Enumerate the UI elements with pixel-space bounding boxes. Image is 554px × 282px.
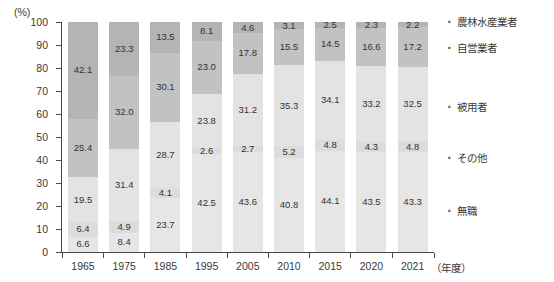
bar-column[interactable]: 43.34.832.517.22.2: [398, 22, 428, 252]
bar-stack: 43.62.731.217.84.6: [233, 22, 263, 252]
legend-item[interactable]: ・被用者: [444, 102, 487, 113]
bar-segment-value: 4.3: [356, 142, 386, 152]
bar-segment-value: 35.3: [274, 101, 304, 111]
bar-segment-value: 42.5: [192, 198, 222, 208]
bar-stack: 8.44.931.432.023.3: [109, 22, 139, 252]
bar-segment-value: 43.3: [398, 197, 428, 207]
legend-item[interactable]: ・農林水産業者: [444, 17, 517, 28]
y-axis-tick-label: 30: [22, 178, 48, 189]
bar-segment-value: 43.6: [233, 197, 263, 207]
bar-segment-value: 34.1: [315, 96, 345, 106]
bar-segment-value: 15.5: [274, 42, 304, 52]
x-axis-tick-mark: [62, 253, 63, 258]
x-axis-tick-mark: [309, 253, 310, 258]
y-axis-tick-label: 50: [22, 132, 48, 143]
bar-segment-value: 32.0: [109, 108, 139, 118]
legend-item-label: 無職: [457, 205, 477, 217]
bar-segment-value: 14.5: [315, 40, 345, 50]
x-axis-tick-mark: [268, 253, 269, 258]
bar-column[interactable]: 43.54.333.216.62.3: [356, 22, 386, 252]
bar-segment-value: 8.1: [192, 27, 222, 37]
bar-segment-value: 2.5: [315, 20, 345, 30]
bar-segment-value: 30.1: [150, 83, 180, 93]
x-axis-tick-mark: [144, 253, 145, 258]
bar-column[interactable]: 42.52.623.823.08.1: [192, 22, 222, 252]
bar-column[interactable]: 8.44.931.432.023.3: [109, 22, 139, 252]
x-axis-unit-label: （年度）: [431, 260, 471, 275]
legend-item-label: 被用者: [457, 101, 487, 113]
bar-segment-value: 17.8: [233, 49, 263, 59]
y-axis-tick-labels: 0102030405060708090100: [22, 0, 48, 282]
legend-bullet-icon: ・: [444, 102, 454, 113]
bar-segment-value: 4.8: [398, 142, 428, 152]
bar-segment-value: 19.5: [68, 195, 98, 205]
y-axis-tick-label: 80: [22, 63, 48, 74]
legend-bullet-icon: ・: [444, 153, 454, 164]
bar-column[interactable]: 43.62.731.217.84.6: [233, 22, 263, 252]
y-axis-tick-label: 90: [22, 40, 48, 51]
bar-segment-value: 25.4: [68, 143, 98, 153]
bar-segment-value: 8.4: [109, 238, 139, 248]
bar-segment-value: 44.1: [315, 197, 345, 207]
bar-segment-value: 2.3: [356, 20, 386, 30]
bar-stack: 44.14.834.114.52.5: [315, 22, 345, 252]
bar-segment-value: 23.3: [109, 44, 139, 54]
legend-item[interactable]: ・その他: [444, 153, 487, 164]
y-axis-tick-label: 40: [22, 155, 48, 166]
y-axis-tick-label: 0: [22, 247, 48, 258]
legend-item-label: 農林水産業者: [457, 16, 517, 28]
legend-item[interactable]: ・自営業者: [444, 43, 497, 54]
bar-segment-value: 2.2: [398, 20, 428, 30]
bar-segment-value: 6.6: [68, 240, 98, 250]
bar-column[interactable]: 23.74.128.730.113.5: [150, 22, 180, 252]
y-axis-tick-label: 100: [22, 17, 48, 28]
legend-bullet-icon: ・: [444, 206, 454, 217]
bar-column[interactable]: 40.85.235.315.53.1: [274, 22, 304, 252]
bar-segment-value: 4.9: [109, 222, 139, 232]
x-axis-tick-mark: [350, 253, 351, 258]
bar-segment-value: 31.4: [109, 181, 139, 191]
bar-segment-value: 4.8: [315, 140, 345, 150]
bar-segment-value: 4.1: [150, 188, 180, 198]
x-axis-tick-mark: [434, 253, 435, 258]
x-axis-tick-mark: [186, 253, 187, 258]
bar-segment-value: 40.8: [274, 200, 304, 210]
bar-stack: 43.54.333.216.62.3: [356, 22, 386, 252]
bar-segment-value: 23.8: [192, 116, 222, 126]
x-axis-tick-mark: [227, 253, 228, 258]
bar-segment-value: 3.1: [274, 21, 304, 31]
bar-segment-value: 17.2: [398, 42, 428, 52]
x-axis-tick-mark: [392, 253, 393, 258]
bar-segment-value: 32.5: [398, 99, 428, 109]
bar-stack: 43.34.832.517.22.2: [398, 22, 428, 252]
bar-segment-value: 42.1: [68, 66, 98, 76]
bar-stack: 40.85.235.315.53.1: [274, 22, 304, 252]
bar-segment-value: 5.2: [274, 147, 304, 157]
stacked-bar-chart: (%) 0102030405060708090100 6.66.419.525.…: [0, 0, 554, 282]
bar-segment-value: 28.7: [150, 150, 180, 160]
bar-segment-value: 4.6: [233, 23, 263, 33]
x-axis-tick-mark: [103, 253, 104, 258]
bar-segment-value: 23.7: [150, 220, 180, 230]
legend-item[interactable]: ・無職: [444, 206, 477, 217]
legend-bullet-icon: ・: [444, 17, 454, 28]
bar-stack: 42.52.623.823.08.1: [192, 22, 222, 252]
bar-segment-value: 13.5: [150, 33, 180, 43]
bar-segment-value: 33.2: [356, 99, 386, 109]
bar-column[interactable]: 6.66.419.525.442.1: [68, 22, 98, 252]
bar-segment-value: 43.5: [356, 197, 386, 207]
y-axis-tick-label: 20: [22, 201, 48, 212]
y-axis-line: [61, 22, 62, 253]
legend-bullet-icon: ・: [444, 43, 454, 54]
y-axis-tick-label: 60: [22, 109, 48, 120]
legend-item-label: その他: [457, 152, 487, 164]
y-axis-tick-label: 10: [22, 224, 48, 235]
legend-item-label: 自営業者: [457, 42, 497, 54]
bar-column[interactable]: 44.14.834.114.52.5: [315, 22, 345, 252]
y-axis-tick-label: 70: [22, 86, 48, 97]
bar-segment-value: 23.0: [192, 62, 222, 72]
bar-segment-value: 6.4: [68, 225, 98, 235]
bar-segment-value: 31.2: [233, 105, 263, 115]
x-axis-line: [61, 252, 434, 253]
bar-segment-value: 16.6: [356, 42, 386, 52]
